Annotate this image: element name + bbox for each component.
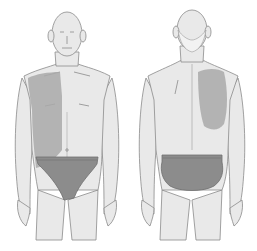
back-underwear (161, 155, 222, 191)
front-figure (15, 12, 119, 240)
figures-svg (0, 0, 257, 251)
body-pain-illustration: Front view Back view (0, 0, 257, 251)
